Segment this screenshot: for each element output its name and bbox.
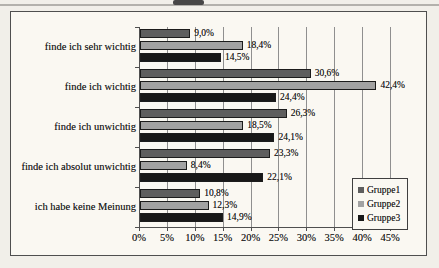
bar-gruppe1-2 [140, 109, 287, 118]
bar-value-label: 12,3% [213, 201, 238, 210]
bar-value-label: 14,9% [227, 213, 252, 222]
y-axis-tick [135, 147, 139, 148]
x-axis-tick-label: 40% [347, 232, 377, 243]
chart-frame: 0%5%10%15%20%25%30%35%40%45%finde ich se… [10, 11, 427, 256]
x-axis-tick [306, 227, 307, 231]
legend-item-gruppe1: Gruppe1 [358, 185, 407, 195]
bar-gruppe1-1 [140, 69, 311, 78]
legend: Gruppe1Gruppe2Gruppe3 [352, 178, 408, 230]
bar-gruppe1-4 [140, 189, 200, 198]
bar-gruppe3-2 [140, 133, 274, 142]
bar-gruppe2-3 [140, 161, 187, 170]
x-axis-tick [251, 227, 252, 231]
x-axis-tick-label: 15% [208, 232, 238, 243]
bar-value-label: 42,4% [380, 81, 405, 90]
bar-gruppe2-2 [140, 121, 243, 130]
legend-swatch-gruppe3 [358, 215, 364, 221]
bar-value-label: 24,1% [278, 133, 303, 142]
y-axis-tick [135, 227, 139, 228]
bar-value-label: 22,1% [267, 173, 292, 182]
x-axis-tick-label: 35% [319, 232, 349, 243]
bar-gruppe1-3 [140, 149, 270, 158]
legend-label: Gruppe2 [367, 199, 400, 209]
gridline [278, 27, 279, 227]
legend-label: Gruppe3 [367, 213, 400, 223]
y-axis-tick [135, 27, 139, 28]
gridline [306, 27, 307, 227]
legend-swatch-gruppe2 [358, 201, 364, 207]
y-axis-tick [135, 107, 139, 108]
bar-value-label: 24,4% [280, 93, 305, 102]
bar-value-label: 8,4% [191, 161, 211, 170]
bar-value-label: 30,6% [315, 69, 340, 78]
category-label: finde ich absolut unwichtig [15, 147, 136, 187]
bar-gruppe3-4 [140, 213, 223, 222]
bar-value-label: 18,5% [247, 121, 272, 130]
x-axis-tick-label: 0% [124, 232, 154, 243]
x-axis-tick-label: 45% [375, 232, 405, 243]
bar-gruppe3-1 [140, 93, 276, 102]
legend-item-gruppe3: Gruppe3 [358, 213, 407, 223]
bar-gruppe3-0 [140, 53, 221, 62]
bar-value-label: 14,5% [225, 53, 250, 62]
y-axis-tick [135, 67, 139, 68]
x-axis-tick [223, 227, 224, 231]
x-axis-tick-label: 25% [263, 232, 293, 243]
bar-gruppe1-0 [140, 29, 190, 38]
category-label: finde ich wichtig [15, 67, 136, 107]
category-label: finde ich sehr wichtig [15, 27, 136, 67]
page-horizontal-rule [0, 4, 439, 6]
legend-swatch-gruppe1 [358, 187, 364, 193]
x-axis-tick-label: 10% [180, 232, 210, 243]
y-axis-tick [135, 187, 139, 188]
bar-value-label: 18,4% [247, 41, 272, 50]
bar-value-label: 23,3% [274, 149, 299, 158]
bar-gruppe3-3 [140, 173, 263, 182]
x-axis-tick [195, 227, 196, 231]
x-axis-tick [278, 227, 279, 231]
category-label: finde ich unwichtig [15, 107, 136, 147]
gridline [334, 27, 335, 227]
scan-smudge [173, 0, 204, 5]
legend-label: Gruppe1 [367, 185, 400, 195]
bar-value-label: 10,8% [204, 189, 229, 198]
bar-gruppe2-0 [140, 41, 243, 50]
category-label: ich habe keine Meinung [15, 187, 136, 227]
legend-item-gruppe2: Gruppe2 [358, 199, 407, 209]
bar-value-label: 26,3% [291, 109, 316, 118]
bar-value-label: 9,0% [194, 29, 214, 38]
x-axis-tick [167, 227, 168, 231]
bar-gruppe2-4 [140, 201, 209, 210]
x-axis-tick [334, 227, 335, 231]
x-axis-tick [139, 227, 140, 231]
x-axis-tick-label: 30% [291, 232, 321, 243]
bar-gruppe2-1 [140, 81, 376, 90]
x-axis-tick-label: 20% [236, 232, 266, 243]
x-axis-tick-label: 5% [152, 232, 182, 243]
